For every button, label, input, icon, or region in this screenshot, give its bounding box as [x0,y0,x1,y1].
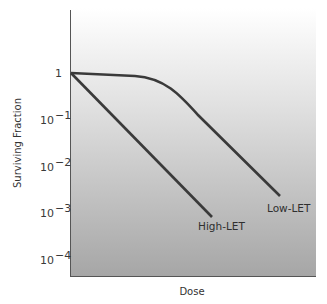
plot-area [70,8,316,276]
y-tick-1e-4: 10 [40,254,54,267]
y-tick-1e-3-exp: −3 [55,202,71,215]
x-axis-title: Dose [179,286,204,297]
y-tick-1e-1: 10 [40,114,54,127]
y-tick-1: 1 [55,67,62,80]
survival-curve-chart: 1 10 −1 10 −2 10 −3 10 −4 Surviving Frac… [0,0,327,304]
y-tick-1e-1-exp: −1 [55,109,71,122]
y-tick-1e-3: 10 [40,207,54,220]
y-tick-1e-4-exp: −4 [55,249,71,262]
high-let-label: High-LET [198,220,245,232]
y-axis-title: Surviving Fraction [12,98,23,188]
y-tick-1e-2: 10 [40,161,54,174]
low-let-label: Low-LET [267,202,311,214]
y-tick-1e-2-exp: −2 [55,156,71,169]
